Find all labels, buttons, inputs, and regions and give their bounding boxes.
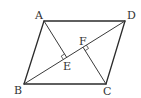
diagonal-bd — [24, 21, 125, 84]
label-a: A — [34, 9, 44, 22]
side-ab — [24, 21, 44, 84]
label-f: F — [79, 35, 87, 48]
perpendicular-ae — [44, 21, 67, 57]
label-c: C — [103, 85, 111, 98]
perpendicular-cf — [83, 47, 106, 84]
side-cd — [106, 21, 125, 84]
label-d: D — [127, 9, 136, 22]
label-b: B — [14, 84, 22, 97]
label-e: E — [63, 60, 71, 73]
parallelogram-diagram: A D B C E F — [0, 0, 141, 98]
